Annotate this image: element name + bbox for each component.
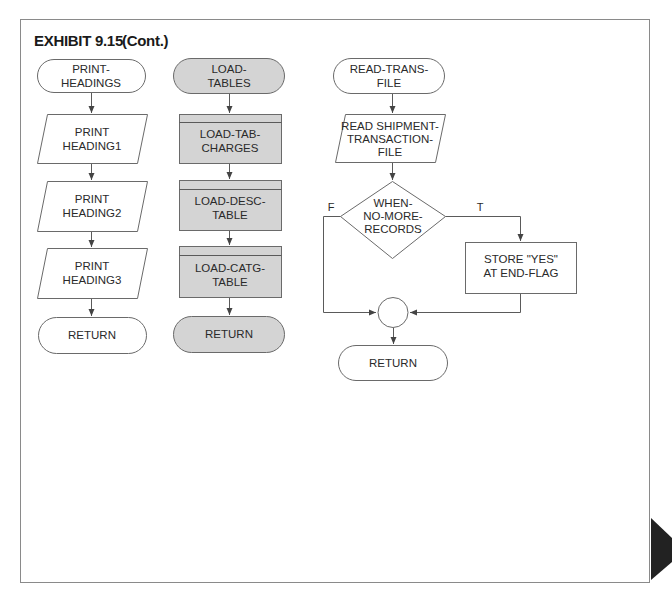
label-decision-1: WHEN-: [374, 197, 413, 209]
label-load-catg-table-2: TABLE: [212, 276, 248, 288]
label-load-desc-table-2: TABLE: [212, 209, 248, 221]
true-merge-line: [410, 294, 521, 313]
label-return-3: RETURN: [369, 357, 417, 369]
label-return-1: RETURN: [68, 329, 116, 341]
label-decision-3: RECORDS: [364, 223, 422, 235]
label-print-heading3-1: PRINT: [75, 260, 110, 272]
label-store-yes-1: STORE "YES": [484, 253, 558, 265]
label-load-tables-2: TABLES: [207, 77, 251, 89]
label-read-shipment-1: READ SHIPMENT-: [341, 120, 439, 132]
label-print-heading2-2: HEADING2: [63, 207, 122, 219]
label-print-headings-1: PRINT-: [72, 63, 110, 75]
connector-circle: [378, 298, 408, 328]
label-print-heading1-1: PRINT: [75, 126, 110, 138]
false-branch-label: F: [328, 201, 335, 213]
label-load-tables-1: LOAD-: [211, 63, 246, 75]
label-return-2: RETURN: [205, 328, 253, 340]
column-print-headings: PRINT- HEADINGS PRINT HEADING1 PRINT HEA…: [38, 60, 148, 354]
label-load-catg-table-1: LOAD-CATG-: [195, 262, 265, 274]
label-print-headings-2: HEADINGS: [61, 77, 121, 89]
exhibit-title-suffix: (Cont.): [122, 32, 169, 49]
exhibit-frame: [21, 20, 650, 583]
exhibit-title: EXHIBIT 9.15: [34, 32, 123, 49]
column-read-trans-file: READ-TRANS- FILE READ SHIPMENT- TRANSACT…: [324, 59, 577, 381]
label-load-tab-charges-1: LOAD-TAB-: [200, 128, 261, 140]
label-load-tab-charges-2: CHARGES: [202, 142, 259, 154]
flowchart-exhibit: EXHIBIT 9.15 (Cont.) PRINT- HEADINGS PRI…: [0, 0, 672, 601]
label-print-heading1-2: HEADING1: [63, 140, 122, 152]
label-read-shipment-2: TRANSACTION-: [347, 133, 433, 145]
label-print-heading3-2: HEADING3: [63, 274, 122, 286]
label-decision-2: NO-MORE-: [363, 210, 423, 222]
true-branch-line: [446, 217, 521, 242]
io-print-heading1: [38, 115, 148, 164]
label-read-trans-file-2: FILE: [377, 77, 402, 89]
true-branch-label: T: [477, 201, 484, 213]
column-load-tables: LOAD- TABLES LOAD-TAB- CHARGES LOAD-DESC…: [174, 59, 285, 353]
label-read-trans-file-1: READ-TRANS-: [350, 63, 429, 75]
label-print-heading2-1: PRINT: [75, 193, 110, 205]
page-tab-marker: [651, 518, 672, 580]
label-read-shipment-3: FILE: [378, 146, 403, 158]
label-store-yes-2: AT END-FLAG: [484, 267, 559, 279]
label-load-desc-table-1: LOAD-DESC-: [195, 195, 266, 207]
